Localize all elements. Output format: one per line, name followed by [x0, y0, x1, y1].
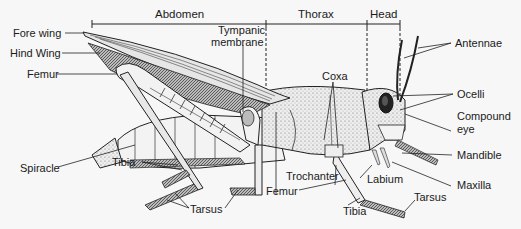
section-label-abdomen: Abdomen: [155, 8, 204, 20]
label-tympanic-membrane-line1: Tympanic: [218, 24, 265, 36]
section-label-thorax: Thorax: [298, 8, 334, 20]
label-femur-hind: Femur: [27, 68, 59, 80]
label-compound-eye-line2: eye: [457, 123, 475, 135]
label-tibia-front: Tibia: [343, 205, 366, 217]
label-fore-wing: Fore wing: [13, 27, 61, 39]
label-maxilla: Maxilla: [457, 179, 491, 191]
label-compound-eye-line1: Compound: [457, 110, 511, 122]
label-spiracle: Spiracle: [20, 162, 60, 174]
label-tarsus-hind: Tarsus: [190, 203, 222, 215]
label-labium: Labium: [367, 173, 403, 185]
label-hind-wing: Hind Wing: [10, 47, 61, 59]
label-mandible: Mandible: [457, 149, 502, 161]
label-tarsus-front: Tarsus: [414, 191, 446, 203]
section-label-head: Head: [370, 8, 398, 20]
label-trochanter: Trochanter: [286, 170, 339, 182]
label-ocelli: Ocelli: [457, 88, 485, 100]
label-tibia-hind: Tibia: [112, 156, 135, 168]
label-coxa: Coxa: [322, 70, 348, 82]
grasshopper-anatomy-diagram: Abdomen Thorax Head Fore wing Hind Wing …: [0, 0, 521, 229]
label-tympanic-membrane-line2: membrane: [211, 36, 264, 48]
label-antennae: Antennae: [455, 37, 502, 49]
label-femur-front: Femur: [266, 185, 298, 197]
